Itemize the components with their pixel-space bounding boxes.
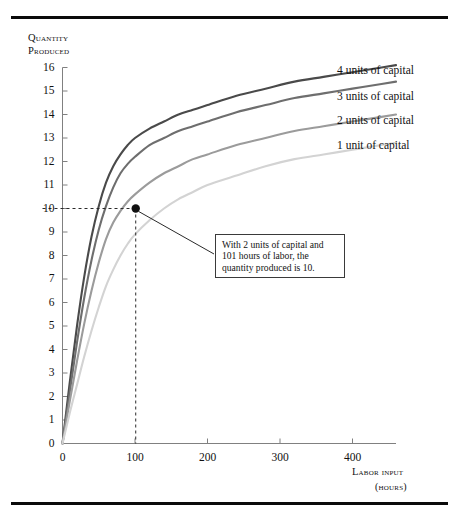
y-tick-label: 3 <box>33 367 55 379</box>
x-tick-label: 0 <box>43 452 83 464</box>
y-tick-label: 14 <box>33 109 55 121</box>
series-label: 4 units of capital <box>337 64 414 76</box>
y-tick-label: 6 <box>33 297 55 309</box>
y-tick-label: 16 <box>33 62 55 74</box>
series-label: 2 units of capital <box>337 114 414 126</box>
curve-2-units-of-capital <box>63 115 397 444</box>
x-tick-label: 100 <box>115 452 155 464</box>
y-tick-label: 11 <box>33 179 55 191</box>
y-tick-label: 8 <box>33 250 55 262</box>
y-tick-label: 13 <box>33 132 55 144</box>
highlight-point-marker <box>132 204 140 212</box>
x-tick-label: 400 <box>333 452 373 464</box>
y-tick-label: 0 <box>33 438 55 450</box>
y-tick-label: 1 <box>33 414 55 426</box>
annotation-leader-line <box>139 212 214 255</box>
y-tick-label: 9 <box>33 226 55 238</box>
y-tick-label: 2 <box>33 391 55 403</box>
y-tick-label: 5 <box>33 320 55 332</box>
annotation-callout: With 2 units of capital and 101 hours of… <box>215 234 345 278</box>
y-tick-label: 15 <box>33 85 55 97</box>
series-label: 3 units of capital <box>337 90 414 102</box>
annotation-leader-line-group <box>139 212 214 255</box>
figure-container: Quantity Produced Labor input (hours) 01… <box>0 0 459 528</box>
highlight-point-group <box>132 204 140 212</box>
series-label: 1 unit of capital <box>337 139 410 151</box>
y-tick-label: 12 <box>33 156 55 168</box>
y-tick-label: 7 <box>33 273 55 285</box>
x-tick-label: 200 <box>188 452 228 464</box>
x-tick-label: 300 <box>260 452 300 464</box>
y-tick-label: 4 <box>33 344 55 356</box>
y-tick-label: 10 <box>33 203 55 215</box>
